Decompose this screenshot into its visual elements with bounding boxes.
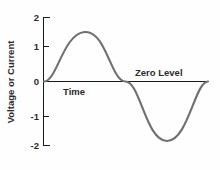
zero-level-label: Zero Level: [135, 67, 183, 78]
y-axis-title: Voltage or Current: [5, 40, 16, 124]
y-tick-label-minus-1: -1: [31, 111, 40, 122]
y-tick-label-2: 2: [34, 12, 39, 23]
y-tick-label-0: 0: [34, 76, 39, 87]
chart-canvas: 2 1 0 -1 -2 Voltage or Current Zero Leve…: [0, 0, 220, 170]
time-label: Time: [63, 86, 85, 97]
waveform-chart: 2 1 0 -1 -2 Voltage or Current Zero Leve…: [0, 0, 220, 170]
y-tick-label-1: 1: [34, 41, 40, 52]
y-tick-label-minus-2: -2: [31, 140, 39, 151]
